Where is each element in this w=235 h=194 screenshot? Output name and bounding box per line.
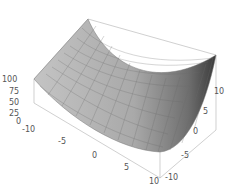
z-tick-50: 50 bbox=[9, 99, 19, 107]
z-tick-100: 100 bbox=[2, 76, 17, 84]
x-tick-10: 10 bbox=[149, 178, 159, 186]
surface-plot bbox=[0, 0, 235, 194]
x-tick-0: 0 bbox=[92, 152, 97, 160]
x-tick-5: 5 bbox=[124, 164, 129, 172]
y-tick-neg10: -10 bbox=[165, 174, 178, 182]
y-tick-10: 10 bbox=[214, 88, 224, 96]
z-tick-0: 0 bbox=[16, 118, 21, 126]
y-tick-5: 5 bbox=[203, 108, 208, 116]
y-tick-neg5: -5 bbox=[181, 152, 189, 160]
z-tick-75: 75 bbox=[9, 88, 19, 96]
x-tick-neg10: -10 bbox=[22, 126, 35, 134]
y-tick-0: 0 bbox=[193, 128, 198, 136]
surface bbox=[34, 19, 216, 152]
x-tick-neg5: -5 bbox=[58, 138, 66, 146]
